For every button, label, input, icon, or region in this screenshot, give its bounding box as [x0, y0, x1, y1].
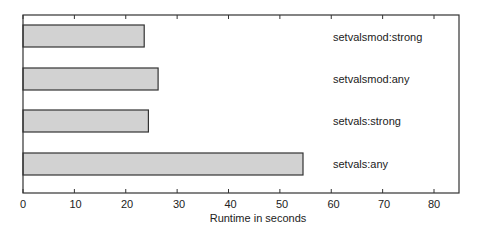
- x-axis-title: Runtime in seconds: [210, 212, 307, 224]
- x-tick-label: 10: [69, 198, 81, 210]
- bar-label-setvals-strong: setvals:strong: [333, 115, 401, 127]
- x-tick-label: 30: [173, 198, 185, 210]
- x-axis-tick-labels: 0 10 20 30 40 50 60 70 80: [20, 198, 440, 210]
- bar-label-setvalsmod-strong: setvalsmod:strong: [333, 31, 422, 43]
- bar-setvalsmod-any: [23, 68, 158, 90]
- bar-setvalsmod-strong: [23, 25, 144, 47]
- bar-label-setvalsmod-any: setvalsmod:any: [333, 73, 410, 85]
- bar-setvals-strong: [23, 110, 148, 132]
- category-labels: setvalsmod:strong setvalsmod:any setvals…: [333, 31, 422, 170]
- x-tick-label: 60: [327, 198, 339, 210]
- runtime-bar-chart: setvalsmod:strong setvalsmod:any setvals…: [0, 0, 482, 233]
- bars-group: [23, 25, 303, 175]
- bar-label-setvals-any: setvals:any: [333, 158, 389, 170]
- x-tick-label: 70: [378, 198, 390, 210]
- x-tick-label: 50: [276, 198, 288, 210]
- x-tick-label: 80: [428, 198, 440, 210]
- x-tick-label: 40: [224, 198, 236, 210]
- x-tick-label: 20: [121, 198, 133, 210]
- x-tick-label: 0: [20, 198, 26, 210]
- bar-setvals-any: [23, 153, 303, 175]
